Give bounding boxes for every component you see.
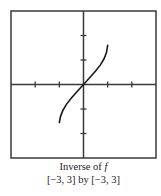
chart-plot <box>0 0 161 160</box>
chart-title-prefix: Inverse of <box>60 161 105 172</box>
window-range-label: [−3, 3] by [−3, 3] <box>0 173 161 186</box>
chart-title: Inverse of f <box>0 160 161 173</box>
chart-title-function: f <box>104 161 107 172</box>
